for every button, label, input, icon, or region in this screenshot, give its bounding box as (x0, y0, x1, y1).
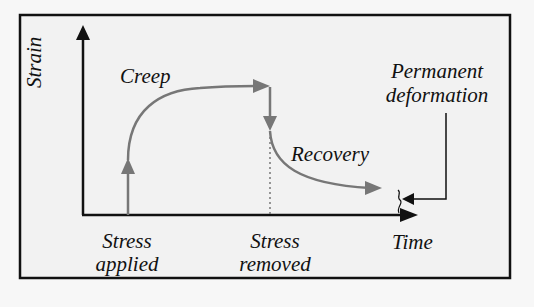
diagram-frame: Strain Creep Recovery Permanent deformat… (0, 0, 534, 307)
x-axis-label: Time (392, 231, 433, 254)
stress-applied-line1: Stress (87, 230, 167, 253)
stress-applied-label: Stress applied (87, 230, 167, 276)
stress-removed-label: Stress removed (225, 230, 325, 276)
stress-removed-line2: removed (225, 253, 325, 276)
permanent-label-line1: Permanent (387, 60, 487, 83)
stress-applied-line2: applied (87, 253, 167, 276)
y-axis-label: Strain (22, 37, 47, 88)
stress-removed-line1: Stress (225, 230, 325, 253)
creep-label: Creep (120, 65, 171, 88)
permanent-label-line2: deformation (377, 84, 497, 107)
recovery-label: Recovery (291, 143, 369, 166)
